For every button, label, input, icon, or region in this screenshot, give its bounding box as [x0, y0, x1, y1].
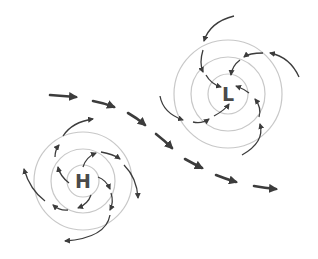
low-pressure-label: L: [222, 83, 234, 105]
pressure-systems-diagram: H L: [0, 0, 318, 259]
high-pressure-label: H: [75, 170, 91, 192]
